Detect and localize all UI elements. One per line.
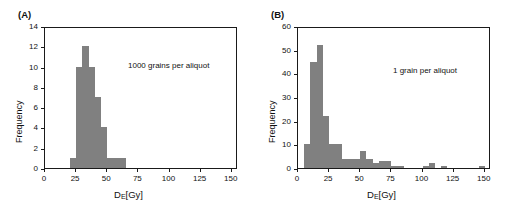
y-tick-mark bbox=[41, 169, 44, 170]
x-tick-label: 50 bbox=[344, 174, 374, 183]
y-tick-label: 2 bbox=[16, 144, 38, 153]
x-tick-label: 25 bbox=[313, 174, 343, 183]
panel-a: (A) 0255075100125150 02468101214 Frequen… bbox=[0, 0, 253, 214]
x-tick-mark bbox=[106, 169, 107, 172]
panel-a-bars bbox=[45, 28, 236, 168]
x-tick-label: 75 bbox=[375, 174, 405, 183]
x-tick-mark bbox=[75, 169, 76, 172]
x-tick-label: 100 bbox=[154, 174, 184, 183]
histogram-bar bbox=[120, 158, 126, 168]
y-tick-mark bbox=[294, 169, 297, 170]
y-tick-label: 0 bbox=[16, 164, 38, 173]
x-tick-mark bbox=[390, 169, 391, 172]
x-tick-mark bbox=[137, 169, 138, 172]
x-tick-mark bbox=[200, 169, 201, 172]
figure-container: (A) 0255075100125150 02468101214 Frequen… bbox=[0, 0, 507, 214]
panel-b-x-label-unit: [Gy] bbox=[379, 189, 396, 200]
y-tick-mark bbox=[294, 51, 297, 52]
y-tick-label: 8 bbox=[16, 83, 38, 92]
panel-b: (B) 0255075100125150 0102030405060 Frequ… bbox=[253, 0, 506, 214]
histogram-bar bbox=[398, 166, 404, 168]
x-tick-mark bbox=[484, 169, 485, 172]
panel-b-label: (B) bbox=[271, 9, 284, 20]
panel-a-y-axis-label: Frequency bbox=[14, 100, 24, 143]
x-tick-label: 0 bbox=[282, 174, 312, 183]
y-tick-label: 14 bbox=[16, 22, 38, 31]
panel-b-y-axis-label: Frequency bbox=[267, 100, 277, 143]
y-tick-mark bbox=[41, 128, 44, 129]
panel-a-x-label-unit: [Gy] bbox=[126, 189, 143, 200]
y-tick-mark bbox=[294, 122, 297, 123]
y-tick-mark bbox=[41, 47, 44, 48]
x-tick-label: 0 bbox=[29, 174, 59, 183]
panel-b-x-label-main: D bbox=[367, 189, 374, 200]
y-tick-mark bbox=[41, 149, 44, 150]
x-tick-label: 150 bbox=[216, 174, 246, 183]
y-tick-mark bbox=[294, 74, 297, 75]
x-tick-label: 25 bbox=[60, 174, 90, 183]
panel-a-label: (A) bbox=[18, 9, 31, 20]
y-tick-mark bbox=[294, 27, 297, 28]
y-tick-mark bbox=[41, 68, 44, 69]
histogram-bar bbox=[441, 166, 447, 168]
x-tick-label: 75 bbox=[122, 174, 152, 183]
y-tick-mark bbox=[294, 145, 297, 146]
y-tick-label: 40 bbox=[269, 69, 291, 78]
histogram-bar bbox=[429, 163, 435, 168]
x-tick-label: 100 bbox=[407, 174, 437, 183]
x-tick-label: 125 bbox=[438, 174, 468, 183]
x-tick-label: 50 bbox=[91, 174, 121, 183]
x-tick-label: 125 bbox=[185, 174, 215, 183]
x-tick-mark bbox=[297, 169, 298, 172]
y-tick-mark bbox=[41, 27, 44, 28]
panel-a-x-axis-label: DE[Gy] bbox=[114, 189, 143, 200]
panel-a-x-label-main: D bbox=[114, 189, 121, 200]
x-tick-mark bbox=[422, 169, 423, 172]
y-tick-label: 50 bbox=[269, 46, 291, 55]
x-tick-mark bbox=[231, 169, 232, 172]
panel-a-annotation: 1000 grains per aliquot bbox=[128, 61, 209, 70]
histogram-bar bbox=[479, 166, 485, 168]
panel-a-plot-area bbox=[44, 27, 237, 169]
y-tick-label: 12 bbox=[16, 42, 38, 51]
y-tick-label: 0 bbox=[269, 164, 291, 173]
panel-b-annotation: 1 grain per aliquot bbox=[393, 66, 457, 75]
x-tick-mark bbox=[359, 169, 360, 172]
x-tick-mark bbox=[453, 169, 454, 172]
panel-b-bars bbox=[298, 28, 489, 168]
y-tick-mark bbox=[294, 98, 297, 99]
panel-b-x-axis-label: DE[Gy] bbox=[367, 189, 396, 200]
x-tick-mark bbox=[44, 169, 45, 172]
y-tick-label: 10 bbox=[16, 63, 38, 72]
x-tick-mark bbox=[169, 169, 170, 172]
y-tick-mark bbox=[41, 108, 44, 109]
x-tick-mark bbox=[328, 169, 329, 172]
y-tick-mark bbox=[41, 88, 44, 89]
x-tick-label: 150 bbox=[469, 174, 499, 183]
panel-b-plot-area bbox=[297, 27, 490, 169]
y-tick-label: 60 bbox=[269, 22, 291, 31]
